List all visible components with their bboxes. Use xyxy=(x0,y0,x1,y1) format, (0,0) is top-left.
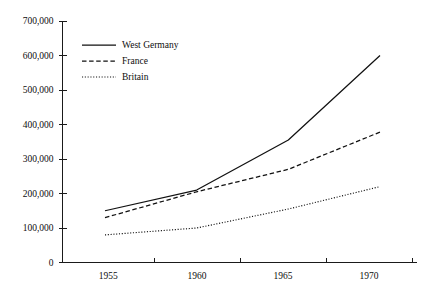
chart-canvas: 0100,000200,000300,000400,000500,000600,… xyxy=(0,0,437,297)
legend-label-west-germany: West Germany xyxy=(122,40,179,50)
y-tick-label: 0 xyxy=(49,258,54,268)
x-tick-label: 1965 xyxy=(274,271,293,281)
y-tick-label: 100,000 xyxy=(23,223,54,233)
line-chart: 0100,000200,000300,000400,000500,000600,… xyxy=(0,0,437,297)
legend-label-britain: Britain xyxy=(122,72,149,82)
y-tick-label: 400,000 xyxy=(23,120,54,130)
y-tick-label: 500,000 xyxy=(23,85,54,95)
chart-background xyxy=(0,0,437,297)
x-tick-label: 1955 xyxy=(99,271,118,281)
y-tick-label: 300,000 xyxy=(23,154,54,164)
y-tick-label: 700,000 xyxy=(23,16,54,26)
y-tick-label: 600,000 xyxy=(23,51,54,61)
y-tick-label: 200,000 xyxy=(23,189,54,199)
x-tick-label: 1970 xyxy=(360,271,379,281)
legend-label-france: France xyxy=(122,56,148,66)
x-tick-label: 1960 xyxy=(188,271,207,281)
